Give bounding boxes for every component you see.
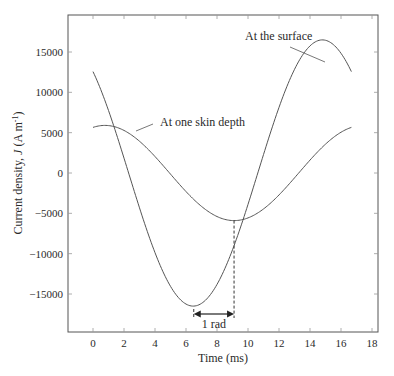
y-tick-label: 0: [58, 167, 64, 179]
y-tick-label: −10000: [29, 248, 63, 260]
x-tick-label: 14: [305, 337, 317, 349]
arrowhead-left-icon: [194, 311, 201, 318]
series-group: [93, 40, 351, 306]
x-tick-label: 18: [367, 337, 379, 349]
y-tick-label: −5000: [35, 207, 64, 219]
y-tick-label: −15000: [29, 288, 63, 300]
x-axis-label: Time (ms): [198, 351, 248, 365]
y-axis: 150001000050000−5000−10000−15000: [29, 46, 378, 300]
annotations: At the surfaceAt one skin depth1 rad: [136, 29, 325, 331]
annotation-skin-depth: At one skin depth: [160, 115, 245, 129]
x-tick-label: 0: [90, 337, 96, 349]
annotation-skin-depth-leader: [136, 124, 153, 131]
y-tick-label: 15000: [36, 46, 64, 58]
chart: 150001000050000−5000−10000−15000 0246810…: [0, 0, 394, 376]
y-axis-label: Current density, J (A m-1): [11, 112, 25, 235]
y-tick-label: 5000: [41, 127, 64, 139]
x-tick-label: 8: [214, 337, 220, 349]
annotation-1-rad: 1 rad: [202, 317, 226, 331]
annotation-surface: At the surface: [245, 29, 312, 43]
skin-depth-curve: [93, 125, 351, 220]
x-tick-label: 16: [336, 337, 348, 349]
x-axis: 024681012141618: [90, 15, 378, 349]
x-tick-label: 10: [243, 337, 255, 349]
x-tick-label: 2: [121, 337, 127, 349]
plot-frame: [68, 15, 378, 332]
x-tick-label: 4: [152, 337, 158, 349]
x-tick-label: 6: [183, 337, 189, 349]
x-tick-label: 12: [274, 337, 285, 349]
surface-curve: [93, 40, 351, 306]
y-tick-label: 10000: [36, 86, 64, 98]
arrowhead-right-icon: [227, 311, 234, 318]
